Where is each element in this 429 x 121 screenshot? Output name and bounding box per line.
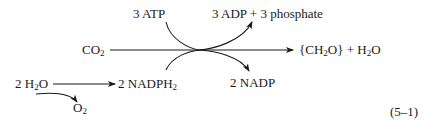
nadp-label: 2 NADP: [230, 76, 275, 90]
water-prefix: 2 H: [15, 76, 34, 91]
photosynthesis-reaction-diagram: 3 ATP 3 ADP + 3 phosphate CO2 {CH2O} + H…: [0, 0, 429, 121]
nadph2-text: 2 NADPH: [118, 76, 173, 91]
co2-subscript: 2: [100, 48, 105, 58]
nadph2-to-nadp-curve-arrow: [166, 50, 249, 71]
water-suffix: O: [39, 76, 48, 91]
product-h2o-end: O: [371, 42, 380, 57]
atp-label: 3 ATP: [133, 7, 165, 21]
product-label: {CH2O} + H2O: [299, 43, 381, 57]
atp-to-adp-curve-arrow: [166, 22, 252, 50]
equation-number: (5–1): [390, 105, 418, 119]
water-label: 2 H2O: [15, 77, 48, 91]
adp-phosphate-label: 3 ADP + 3 phosphate: [212, 7, 323, 21]
oxygen-label: O2: [73, 101, 87, 115]
nadph2-label: 2 NADPH2: [118, 77, 177, 91]
co2-label: CO2: [82, 43, 105, 57]
co2-text: CO: [82, 42, 100, 57]
nadph2-subscript: 2: [173, 82, 178, 92]
product-ch2o-close: O} + H: [328, 42, 367, 57]
oxygen-subscript: 2: [82, 106, 87, 116]
product-ch2o-open: {CH: [299, 42, 323, 57]
oxygen-text: O: [73, 100, 82, 115]
water-to-oxygen-curve-arrow: [36, 93, 77, 102]
